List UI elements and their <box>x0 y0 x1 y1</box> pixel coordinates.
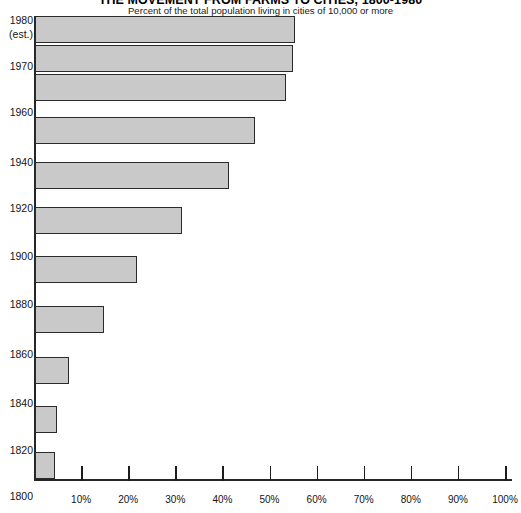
x-tick-60 <box>317 466 319 481</box>
x-tick-10 <box>81 466 83 481</box>
x-tick-50 <box>270 466 272 481</box>
bar-1940 <box>35 117 255 144</box>
bar-1920 <box>35 162 229 189</box>
bar-1840 <box>35 357 69 384</box>
y-axis-label-1980: 1980 <box>1 14 33 26</box>
bar-1970 <box>35 45 293 72</box>
x-tick-label-10: 10% <box>71 494 91 505</box>
x-axis-line <box>34 479 512 481</box>
y-axis-label-1820: 1820 <box>1 444 33 456</box>
x-tick-80 <box>411 466 413 481</box>
y-axis-labels: 1980197019601940192019001880186018401820… <box>0 0 33 513</box>
bar-1860 <box>35 306 104 333</box>
y-axis-label-1860: 1860 <box>1 348 33 360</box>
y-axis-label-1940: 1940 <box>1 156 33 168</box>
y-axis-label-1970: 1970 <box>1 60 33 72</box>
y-axis-label-1800: 1800 <box>1 490 33 502</box>
x-tick-70 <box>364 466 366 481</box>
x-tick-100 <box>505 466 507 481</box>
x-tick-label-80: 80% <box>401 494 421 505</box>
x-tick-20 <box>128 466 130 481</box>
bar-1880 <box>35 256 137 283</box>
x-tick-label-20: 20% <box>118 494 138 505</box>
x-tick-label-40: 40% <box>212 494 232 505</box>
x-tick-label-90: 90% <box>448 494 468 505</box>
y-axis-label-1960: 1960 <box>1 106 33 118</box>
x-tick-label-60: 60% <box>307 494 327 505</box>
y-axis-label-1920: 1920 <box>1 202 33 214</box>
bar-1800 <box>35 452 55 479</box>
plot-area: 10%20%30%40%50%60%70%80%90%100% <box>0 0 521 513</box>
y-axis-label-1900: 1900 <box>1 250 33 262</box>
bar-1960 <box>35 74 286 101</box>
bar-1820 <box>35 406 57 433</box>
x-tick-label-50: 50% <box>259 494 279 505</box>
x-tick-label-70: 70% <box>354 494 374 505</box>
x-tick-label-100: 100% <box>492 494 518 505</box>
y-axis-label-1980-annotation: (est.) <box>1 28 33 40</box>
bar-1980 <box>35 16 295 43</box>
x-tick-label-30: 30% <box>165 494 185 505</box>
y-axis-label-1880: 1880 <box>1 298 33 310</box>
chart-page: THE MOVEMENT FROM FARMS TO CITIES, 1800-… <box>0 0 521 513</box>
y-axis-label-1840: 1840 <box>1 397 33 409</box>
bar-1900 <box>35 207 182 234</box>
x-tick-90 <box>458 466 460 481</box>
x-tick-40 <box>222 466 224 481</box>
x-tick-30 <box>175 466 177 481</box>
